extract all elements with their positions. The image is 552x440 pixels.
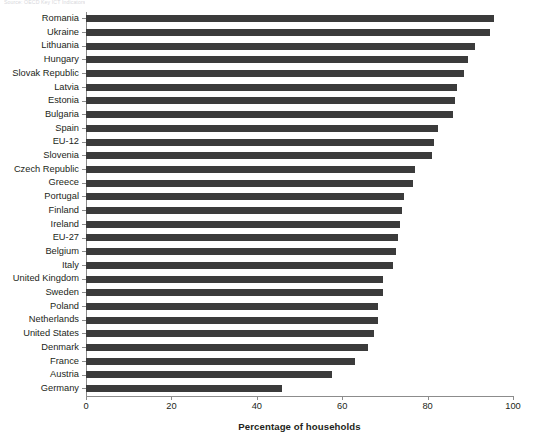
category-label: Hungary — [44, 53, 79, 67]
category-label: Bulgaria — [45, 108, 79, 122]
category-label: Poland — [50, 300, 79, 314]
category-label: Greece — [49, 176, 80, 190]
category-label: United Kingdom — [13, 272, 79, 286]
category-label: Ukraine — [47, 26, 79, 40]
bar-row: Finland — [86, 204, 513, 218]
bar — [86, 303, 378, 310]
bar — [86, 344, 368, 351]
bar — [86, 193, 404, 200]
bar-row: Netherlands — [86, 313, 513, 327]
bar — [86, 207, 402, 214]
x-axis-tick — [428, 396, 429, 400]
category-label: France — [50, 355, 79, 369]
category-label: Italy — [62, 259, 79, 273]
bar — [86, 221, 400, 228]
category-label: Germany — [41, 382, 79, 396]
bar-row: EU-12 — [86, 135, 513, 149]
x-axis-tick — [342, 396, 343, 400]
bar-rows: RomaniaUkraineLithuaniaHungarySlovak Rep… — [86, 12, 513, 396]
bar — [86, 166, 415, 173]
x-axis-tick-label: 40 — [252, 401, 262, 412]
bar — [86, 139, 434, 146]
bar-row: Bulgaria — [86, 108, 513, 122]
category-label: Romania — [42, 12, 79, 26]
bar — [86, 125, 438, 132]
bar — [86, 248, 396, 255]
bar — [86, 111, 453, 118]
bar-row: United Kingdom — [86, 272, 513, 286]
bar-row: Austria — [86, 368, 513, 382]
category-label: Latvia — [54, 81, 79, 95]
x-axis-tick-label: 80 — [422, 401, 432, 412]
bar-row: Latvia — [86, 81, 513, 95]
bar — [86, 15, 494, 22]
bar-row: Czech Republic — [86, 163, 513, 177]
category-label: Denmark — [41, 341, 79, 355]
bar-chart-figure: Source: OECD Key ICT Indicators RomaniaU… — [0, 0, 552, 440]
bar-row: Denmark — [86, 341, 513, 355]
x-axis-tick — [171, 396, 172, 400]
bar — [86, 97, 455, 104]
category-label: Estonia — [48, 94, 79, 108]
bar — [86, 152, 432, 159]
bar-row: Ireland — [86, 218, 513, 232]
top-caption: Source: OECD Key ICT Indicators — [4, 0, 85, 6]
bar — [86, 180, 413, 187]
bar-row: Italy — [86, 259, 513, 273]
x-axis-tick-label: 100 — [505, 401, 521, 412]
category-label: Slovak Republic — [12, 67, 79, 81]
x-axis-tick-label: 20 — [166, 401, 176, 412]
bar-row: Slovak Republic — [86, 67, 513, 81]
category-label: Netherlands — [29, 313, 79, 327]
bar — [86, 262, 393, 269]
category-label: Lithuania — [41, 39, 79, 53]
bar-row: Spain — [86, 122, 513, 136]
x-axis-tick-label: 60 — [337, 401, 347, 412]
bar — [86, 371, 332, 378]
x-axis-tick — [257, 396, 258, 400]
bar — [86, 276, 383, 283]
bar — [86, 385, 282, 392]
category-label: Sweden — [45, 286, 79, 300]
bar — [86, 358, 355, 365]
bar — [86, 84, 457, 91]
bar-row: Hungary — [86, 53, 513, 67]
category-label: Slovenia — [43, 149, 79, 163]
bar-row: Portugal — [86, 190, 513, 204]
plot-area: RomaniaUkraineLithuaniaHungarySlovak Rep… — [86, 12, 513, 396]
bar — [86, 330, 374, 337]
bar — [86, 29, 490, 36]
bar — [86, 317, 378, 324]
category-label: United States — [23, 327, 79, 341]
bar — [86, 43, 475, 50]
category-label: Czech Republic — [14, 163, 79, 177]
category-label: EU-27 — [53, 231, 79, 245]
x-axis-tick — [86, 396, 87, 400]
category-label: Portugal — [44, 190, 79, 204]
bar-row: Slovenia — [86, 149, 513, 163]
x-axis-tick-label: 0 — [83, 401, 88, 412]
bar — [86, 56, 468, 63]
bar — [86, 234, 398, 241]
bar-row: Lithuania — [86, 39, 513, 53]
category-label: Ireland — [51, 218, 79, 232]
category-label: Belgium — [45, 245, 79, 259]
bar-row: Estonia — [86, 94, 513, 108]
category-label: Finland — [49, 204, 80, 218]
x-axis-tick — [513, 396, 514, 400]
bar-row: Belgium — [86, 245, 513, 259]
category-label: EU-12 — [53, 135, 79, 149]
bar-row: Germany — [86, 382, 513, 396]
bar-row: Greece — [86, 176, 513, 190]
x-axis-title: Percentage of households — [86, 421, 513, 432]
bar-row: EU-27 — [86, 231, 513, 245]
bar-row: France — [86, 355, 513, 369]
bar-row: United States — [86, 327, 513, 341]
bar — [86, 70, 464, 77]
category-label: Austria — [50, 368, 79, 382]
bar-row: Ukraine — [86, 26, 513, 40]
bar-row: Sweden — [86, 286, 513, 300]
bar — [86, 289, 383, 296]
bar-row: Poland — [86, 300, 513, 314]
bar-row: Romania — [86, 12, 513, 26]
